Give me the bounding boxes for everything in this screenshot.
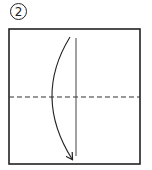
origami-diagram [0,0,152,170]
fold-arrow-icon [52,37,72,159]
